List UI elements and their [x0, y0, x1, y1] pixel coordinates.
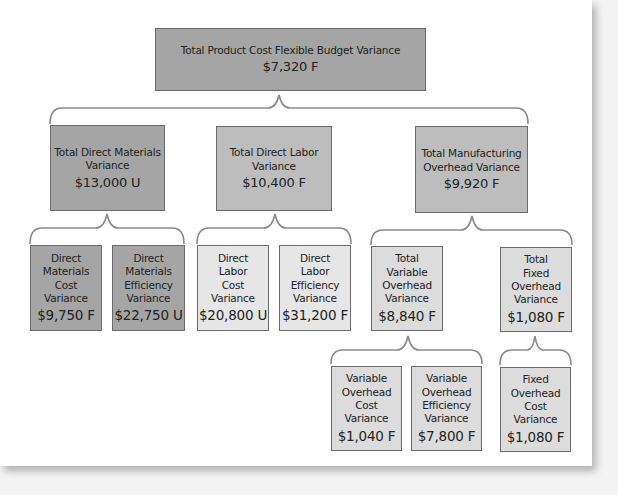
node-value: $13,000 U	[75, 174, 141, 191]
node-value: $9,750 F	[37, 306, 95, 324]
node-label: Direct Materials Efficiency Variance	[117, 252, 181, 306]
node-variable-overhead-cost-variance: Variable Overhead Cost Variance $1,040 F	[331, 366, 402, 451]
node-value: $9,920 F	[444, 175, 500, 192]
node-value: $31,200 F	[282, 306, 348, 324]
node-value: $1,040 F	[338, 427, 396, 445]
node-direct-materials-efficiency-variance: Direct Materials Efficiency Variance $22…	[112, 245, 185, 331]
node-total-variable-overhead-variance: Total Variable Overhead Variance $8,840 …	[371, 246, 443, 331]
node-label: Total Direct Materials Variance	[52, 146, 164, 173]
node-value: $20,800 U	[199, 306, 267, 324]
node-label: Direct Labor Efficiency Variance	[290, 252, 340, 306]
node-total-direct-labor-variance: Total Direct Labor Variance $10,400 F	[216, 126, 332, 211]
node-value: $10,400 F	[242, 174, 306, 191]
node-label: Total Product Cost Flexible Budget Varia…	[181, 44, 400, 58]
node-label: Fixed Overhead Cost Variance	[511, 373, 561, 427]
node-value: $8,840 F	[378, 307, 436, 325]
node-fixed-overhead-cost-variance: Fixed Overhead Cost Variance $1,080 F	[500, 367, 571, 452]
node-direct-labor-efficiency-variance: Direct Labor Efficiency Variance $31,200…	[279, 245, 351, 331]
node-total-product-cost-variance: Total Product Cost Flexible Budget Varia…	[155, 28, 426, 91]
node-value: $1,080 F	[507, 428, 565, 446]
node-label: Total Variable Overhead Variance	[382, 252, 432, 306]
node-label: Total Fixed Overhead Variance	[511, 253, 561, 307]
node-total-direct-materials-variance: Total Direct Materials Variance $13,000 …	[50, 125, 165, 211]
node-label: Variable Overhead Efficiency Variance	[422, 372, 472, 426]
node-value: $7,320 F	[263, 58, 319, 75]
node-label: Total Manufacturing Overhead Variance	[417, 147, 527, 174]
node-value: $7,800 F	[418, 427, 476, 445]
node-label: Direct Materials Cost Variance	[34, 252, 98, 306]
node-label: Variable Overhead Cost Variance	[342, 372, 392, 426]
node-value: $1,080 F	[507, 308, 565, 326]
node-label: Total Direct Labor Variance	[226, 146, 322, 173]
node-total-manufacturing-overhead-variance: Total Manufacturing Overhead Variance $9…	[415, 126, 528, 213]
node-direct-labor-cost-variance: Direct Labor Cost Variance $20,800 U	[197, 245, 269, 331]
node-label: Direct Labor Cost Variance	[208, 252, 258, 306]
node-variable-overhead-efficiency-variance: Variable Overhead Efficiency Variance $7…	[411, 366, 482, 451]
node-total-fixed-overhead-variance: Total Fixed Overhead Variance $1,080 F	[500, 247, 572, 332]
node-value: $22,750 U	[114, 306, 182, 324]
node-direct-materials-cost-variance: Direct Materials Cost Variance $9,750 F	[30, 245, 102, 331]
